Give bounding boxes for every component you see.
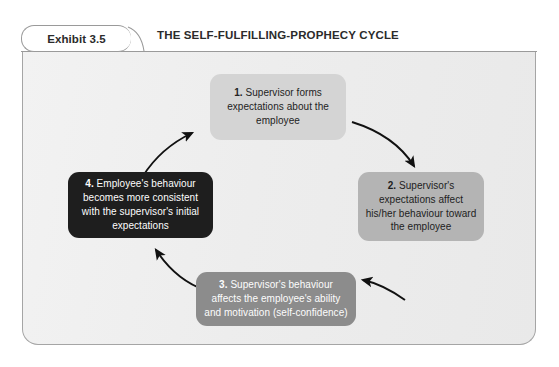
exhibit-number-label: Exhibit 3.5 xyxy=(47,33,106,45)
cycle-step-2-box: 2. Supervisor's expectations affect his/… xyxy=(358,172,484,241)
cycle-step-2-text: 2. Supervisor's expectations affect his/… xyxy=(358,179,484,234)
arrow-4-to-1 xyxy=(143,133,192,176)
cycle-step-3-text: 3. Supervisor's behaviour affects the em… xyxy=(196,278,356,319)
arrow-1-to-2 xyxy=(352,122,414,166)
cycle-step-number: 4. xyxy=(85,178,93,189)
arrow-2-to-3 xyxy=(363,280,405,300)
cycle-step-number: 1. xyxy=(234,87,242,98)
cycle-step-number: 2. xyxy=(388,180,396,191)
cycle-step-4-text: 4. Employee's behaviour becomes more con… xyxy=(68,177,213,232)
cycle-step-3-box: 3. Supervisor's behaviour affects the em… xyxy=(196,272,356,326)
cycle-step-1-text: 1. Supervisor forms expectations about t… xyxy=(210,86,346,127)
cycle-step-1-box: 1. Supervisor forms expectations about t… xyxy=(210,74,346,140)
cycle-step-number: 3. xyxy=(219,279,227,290)
self-fulfilling-prophecy-cycle-diagram: 1. Supervisor forms expectations about t… xyxy=(0,0,559,367)
exhibit-number-tab: Exhibit 3.5 xyxy=(21,25,131,52)
cycle-step-4-box: 4. Employee's behaviour becomes more con… xyxy=(68,172,213,238)
